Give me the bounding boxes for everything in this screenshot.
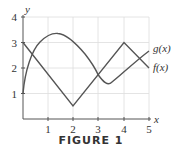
svg-text:2: 2	[12, 62, 18, 74]
f-label: f(x)	[153, 61, 169, 74]
g-label: g(x)	[153, 42, 171, 55]
grid	[23, 17, 149, 119]
svg-text:3: 3	[12, 37, 18, 49]
svg-text:1: 1	[12, 88, 18, 100]
f-curve	[23, 43, 149, 107]
tick-labels: 1 2 3 4 5 4 3 2 1 y x	[12, 3, 160, 135]
svg-text:4: 4	[12, 11, 18, 23]
figure-caption: FIGURE 1	[0, 134, 182, 147]
svg-text:x: x	[153, 113, 159, 125]
svg-text:y: y	[24, 3, 30, 15]
